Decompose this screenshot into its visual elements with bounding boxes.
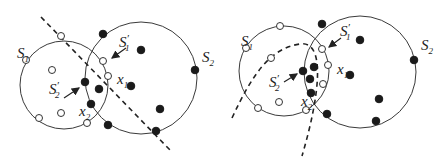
open-sample-point: [49, 67, 56, 74]
open-sample-point: [276, 99, 283, 106]
open-sample-point: [320, 81, 327, 88]
label-s2: S2: [421, 37, 434, 56]
arrow-s2-prime: [64, 88, 79, 98]
label-s1-prime: S′1: [340, 21, 351, 42]
set-circle-s2: [304, 16, 416, 128]
label-x1: x1: [116, 71, 128, 90]
open-sample-point: [105, 73, 112, 80]
set-circle-s1: [20, 41, 108, 129]
label-x1: x1: [336, 61, 348, 80]
filled-sample-point: [356, 36, 364, 44]
filled-sample-point: [152, 127, 160, 135]
label-s2: S2: [202, 49, 215, 68]
panel-nonlinear-separator: S1S2S′1x1S′2x2: [232, 16, 434, 156]
filled-sample-point: [310, 63, 318, 71]
open-sample-point: [100, 58, 107, 65]
panel-linear-separator: S1S2S′1x1S′2x2: [17, 17, 215, 150]
filled-sample-point: [323, 110, 331, 118]
open-sample-point: [268, 55, 275, 62]
arrow-s1-prime: [329, 38, 341, 47]
filled-sample-point: [81, 78, 89, 86]
filled-sample-point: [104, 121, 112, 129]
open-sample-point: [319, 46, 326, 53]
label-s2-prime: S′2: [49, 79, 60, 100]
filled-sample-point: [127, 82, 135, 90]
filled-sample-point: [87, 100, 95, 108]
filled-sample-point: [191, 66, 199, 74]
filled-sample-point: [95, 85, 103, 93]
set-circle-s2: [85, 22, 197, 134]
arrow-s2-prime: [284, 74, 297, 82]
filled-sample-point: [99, 30, 107, 38]
open-sample-point: [58, 110, 65, 117]
filled-sample-point: [156, 105, 164, 113]
filled-sample-point: [410, 56, 418, 64]
filled-sample-point: [372, 117, 380, 125]
filled-sample-point: [306, 75, 314, 83]
filled-sample-point: [137, 46, 145, 54]
filled-sample-point: [307, 89, 315, 97]
svm-sample-selection-diagram: S1S2S′1x1S′2x2 S1S2S′1x1S′2x2: [0, 0, 447, 164]
open-sample-point: [277, 23, 284, 30]
open-sample-point: [36, 115, 43, 122]
open-sample-point: [255, 105, 262, 112]
filled-sample-point: [318, 20, 326, 28]
filled-sample-point: [375, 95, 383, 103]
open-sample-point: [325, 62, 332, 69]
label-s2-prime: S′2: [269, 72, 280, 93]
open-sample-point: [58, 33, 65, 40]
filled-sample-point: [299, 67, 307, 75]
